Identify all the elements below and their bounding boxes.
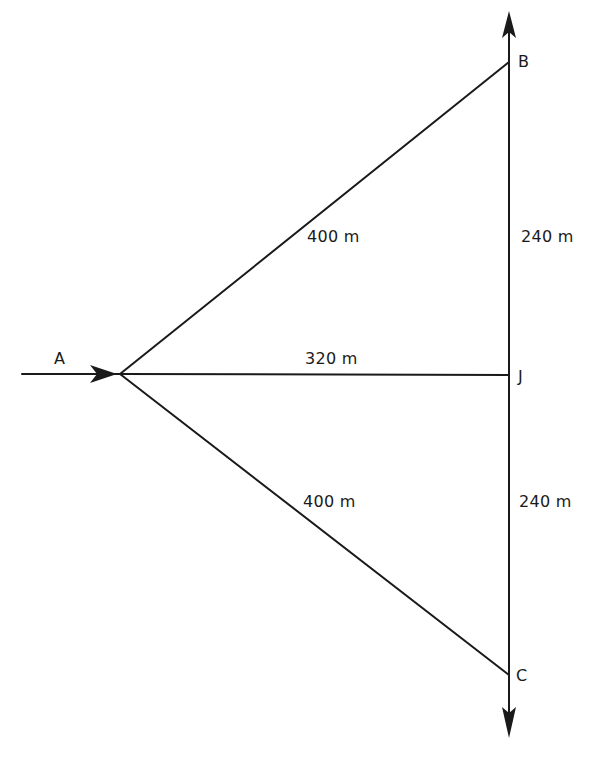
length-label-lower-diagonal: 400 m	[303, 494, 356, 510]
length-label-upper-diagonal: 400 m	[307, 229, 360, 245]
length-label-horizontal: 320 m	[305, 351, 358, 367]
length-label-lower-vertical: 240 m	[519, 494, 572, 510]
edge-junction-j	[120, 374, 509, 375]
diagram-canvas	[0, 0, 597, 757]
node-label-j: J	[518, 369, 523, 385]
node-label-b: B	[518, 54, 529, 70]
length-label-upper-vertical: 240 m	[521, 229, 574, 245]
node-label-c: C	[516, 668, 527, 684]
edge-junction-c	[120, 374, 509, 675]
node-label-a: A	[54, 351, 65, 367]
edge-junction-b	[120, 62, 509, 374]
